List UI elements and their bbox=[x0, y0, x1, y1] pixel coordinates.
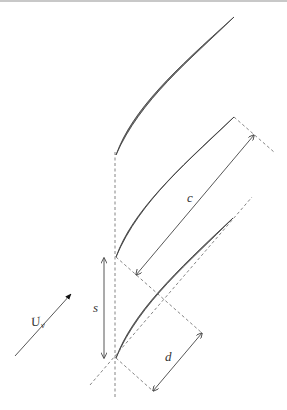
chord-label: c bbox=[187, 190, 193, 205]
blade-bottom bbox=[116, 218, 233, 358]
velocity-subscript: v bbox=[40, 320, 45, 330]
blade-middle bbox=[116, 117, 234, 257]
throat-extension bbox=[116, 358, 153, 391]
throat-label: d bbox=[165, 349, 172, 364]
chord-extension-top bbox=[234, 117, 274, 152]
velocity-label: Uv bbox=[30, 313, 46, 332]
cascade-diagram: c s d Uv bbox=[0, 0, 287, 410]
throat-arrow bbox=[153, 333, 202, 391]
spacing-label: s bbox=[93, 300, 98, 315]
chord-extension-bottom bbox=[116, 257, 202, 333]
